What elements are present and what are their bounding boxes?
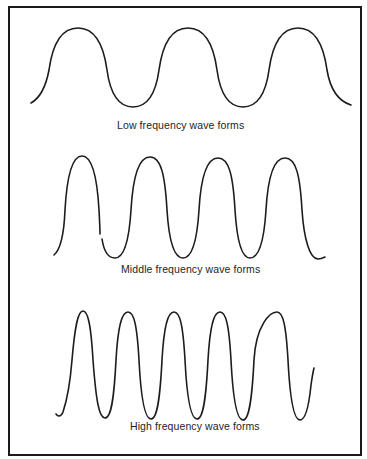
- waveform-figure: Low frequency wave forms Middle frequenc…: [0, 0, 367, 459]
- low-frequency-caption: Low frequency wave forms: [117, 119, 244, 131]
- high-frequency-wave: [56, 311, 314, 420]
- waveforms-canvas: [0, 0, 367, 459]
- high-frequency-caption: High frequency wave forms: [130, 420, 260, 432]
- middle-frequency-wave: [54, 156, 325, 259]
- low-frequency-wave: [31, 28, 351, 107]
- middle-frequency-caption: Middle frequency wave forms: [121, 263, 260, 275]
